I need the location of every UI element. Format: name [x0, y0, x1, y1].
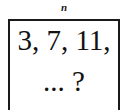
- sequence-box: 3, 7, 11, ... ?: [8, 19, 120, 110]
- sequence-diagram: n 3, 7, 11, ... ?: [0, 0, 128, 110]
- variable-label-n: n: [0, 0, 128, 14]
- sequence-continuation: ... ?: [10, 65, 118, 97]
- sequence-terms: 3, 7, 11,: [10, 24, 118, 56]
